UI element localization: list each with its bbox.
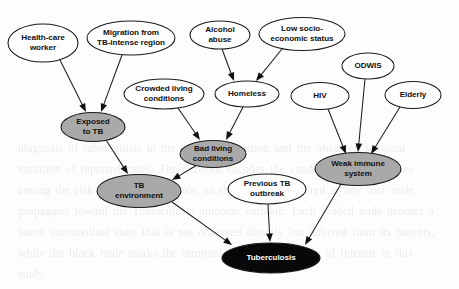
- node-health_care_worker[interactable]: Health-careworker: [8, 24, 78, 62]
- edge-line: [222, 49, 232, 74]
- arrowhead-icon: [305, 236, 312, 245]
- edge-line: [229, 107, 243, 134]
- arrowhead-icon: [371, 145, 378, 154]
- arrowhead-icon: [228, 72, 234, 81]
- node-label: Migration fromTB-intense region: [97, 28, 165, 46]
- node-elderly[interactable]: Elderly: [385, 82, 441, 109]
- node-hiv[interactable]: HIV: [291, 83, 349, 110]
- edge-line: [359, 79, 365, 145]
- edge-tb_environment-to-tuberculosis: [172, 202, 232, 245]
- edge-weak_immune-to-tuberculosis: [305, 184, 341, 245]
- arrowhead-icon: [192, 131, 200, 140]
- node-label: Bad livingconditions: [193, 144, 234, 162]
- node-bad_living[interactable]: Bad livingconditions: [180, 141, 246, 168]
- node-tuberculosis[interactable]: Tuberculosis: [222, 243, 320, 273]
- edge-line: [106, 140, 124, 168]
- arrowhead-icon: [356, 143, 363, 152]
- node-odwis[interactable]: ODWIS: [342, 53, 394, 79]
- arrowhead-icon: [121, 165, 128, 174]
- edge-crowded_living-to-bad_living: [178, 108, 200, 140]
- edge-migration-to-exposed_to_tb: [101, 55, 122, 112]
- edge-line: [60, 60, 83, 106]
- node-label: Alcoholabuse: [205, 25, 234, 43]
- edge-line: [172, 202, 226, 241]
- figure-canvas: diagnosis of tuberculosis in the patient…: [0, 0, 459, 289]
- edge-line: [375, 107, 400, 148]
- arrowhead-icon: [256, 72, 264, 81]
- node-label: ODWIS: [354, 61, 382, 70]
- edge-health_care_worker-to-exposed_to_tb: [60, 60, 86, 112]
- arrowhead-icon: [101, 103, 107, 112]
- edge-line: [260, 49, 282, 76]
- node-previous_tb[interactable]: Previous TBoutbreak: [228, 174, 306, 204]
- node-label: Crowded livingconditions: [135, 84, 192, 102]
- edge-homeless-to-bad_living: [226, 107, 243, 140]
- tuberculosis-causal-graph: Health-careworkerMigration fromTB-intens…: [0, 0, 459, 289]
- edge-line: [178, 108, 196, 134]
- node-crowded_living[interactable]: Crowded livingconditions: [124, 79, 204, 109]
- node-label: HIV: [313, 91, 327, 100]
- edge-exposed_to_tb-to-tb_environment: [106, 140, 128, 174]
- edge-alcohol_abuse-to-homeless: [222, 49, 234, 81]
- arrowhead-icon: [266, 233, 273, 242]
- edge-odwis-to-weak_immune: [356, 79, 365, 152]
- edge-hiv-to-weak_immune: [328, 109, 346, 154]
- edge-elderly-to-weak_immune: [371, 107, 400, 154]
- edge-line: [268, 204, 270, 235]
- edge-line: [309, 184, 341, 239]
- node-label: Homeless: [228, 89, 266, 98]
- edge-line: [328, 109, 343, 148]
- edge-line: [178, 165, 197, 176]
- edge-line: [103, 55, 122, 105]
- edge-low_socio-to-homeless: [256, 49, 282, 81]
- edge-bad_living-to-tb_environment: [172, 165, 197, 180]
- arrowhead-icon: [226, 131, 233, 140]
- node-weak_immune[interactable]: Weak immunesystem: [315, 153, 401, 186]
- node-low_socio[interactable]: Low socio-economic status: [259, 18, 345, 51]
- node-migration[interactable]: Migration fromTB-intense region: [87, 21, 175, 55]
- node-alcohol_abuse[interactable]: Alcoholabuse: [190, 21, 250, 49]
- arrowhead-icon: [223, 237, 232, 245]
- node-label: Elderly: [400, 90, 427, 99]
- node-tb_environment[interactable]: TBenvironment: [97, 175, 181, 208]
- arrowhead-icon: [172, 173, 181, 180]
- node-label: Tuberculosis: [246, 253, 296, 262]
- edge-previous_tb-to-tuberculosis: [266, 204, 273, 242]
- arrowhead-icon: [340, 145, 346, 154]
- node-label: Previous TBoutbreak: [244, 179, 291, 197]
- arrowhead-icon: [79, 103, 86, 112]
- node-exposed_to_tb[interactable]: Exposedto TB: [61, 113, 125, 142]
- node-homeless[interactable]: Homeless: [215, 81, 279, 107]
